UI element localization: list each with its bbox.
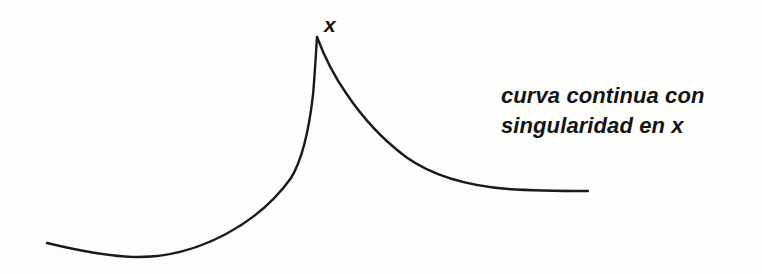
annotation-line-2: singularidad en x xyxy=(501,111,705,141)
annotation-text: curva continua con singularidad en x xyxy=(501,81,705,141)
figure-canvas: x curva continua con singularidad en x xyxy=(0,0,762,274)
annotation-line-1: curva continua con xyxy=(501,81,705,111)
singular-point-label: x xyxy=(324,14,336,35)
curve-left-branch xyxy=(47,37,317,257)
